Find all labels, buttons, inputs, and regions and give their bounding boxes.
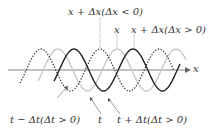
label-shift-negative: x + Δx(Δx < 0) xyxy=(68,7,143,17)
wave-plot xyxy=(0,0,208,131)
label-current: t xyxy=(98,115,102,125)
label-earlier: t − Δt(Δt > 0) xyxy=(10,115,80,125)
axis-arrow-icon xyxy=(185,67,191,73)
axis-label: x xyxy=(193,64,199,74)
label-later: t + Δt(Δt > 0) xyxy=(117,115,187,125)
label-shift-positive: x + Δx(Δx > 0) xyxy=(131,25,206,35)
wave-diagram: x + Δx(Δx < 0) x x + Δx(Δx > 0) x t − Δt… xyxy=(0,0,208,131)
label-origin: x xyxy=(114,25,120,35)
